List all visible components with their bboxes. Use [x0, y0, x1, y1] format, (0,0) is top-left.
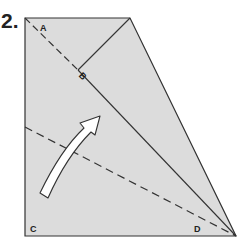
label-d: D [194, 224, 201, 234]
origami-diagram: A B C D [0, 0, 245, 249]
label-c: C [30, 224, 37, 234]
label-a: A [40, 23, 47, 33]
